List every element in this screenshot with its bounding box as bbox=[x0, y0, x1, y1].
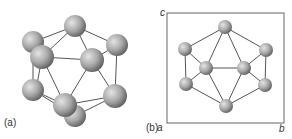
atom bbox=[259, 43, 273, 57]
panel-b-bonds bbox=[185, 27, 266, 106]
atom bbox=[237, 61, 251, 75]
atom bbox=[219, 99, 233, 113]
atom bbox=[106, 34, 128, 56]
axis-label-c: c bbox=[160, 7, 165, 18]
axis-label-a: a bbox=[157, 122, 163, 133]
atom bbox=[218, 20, 232, 34]
atom bbox=[103, 84, 127, 108]
atom bbox=[80, 48, 104, 72]
atom bbox=[64, 15, 86, 37]
atom bbox=[179, 77, 193, 91]
atom bbox=[30, 45, 54, 69]
panel-a-atoms bbox=[22, 15, 128, 127]
panel-b-atoms bbox=[178, 20, 273, 113]
atom bbox=[199, 61, 213, 75]
atom bbox=[258, 78, 272, 92]
atom bbox=[53, 93, 77, 117]
atom bbox=[22, 79, 44, 101]
atom bbox=[178, 42, 192, 56]
figure: (a) (b) a b c bbox=[0, 0, 292, 139]
panel-a-label: (a) bbox=[4, 117, 16, 128]
axis-label-b: b bbox=[279, 123, 285, 134]
